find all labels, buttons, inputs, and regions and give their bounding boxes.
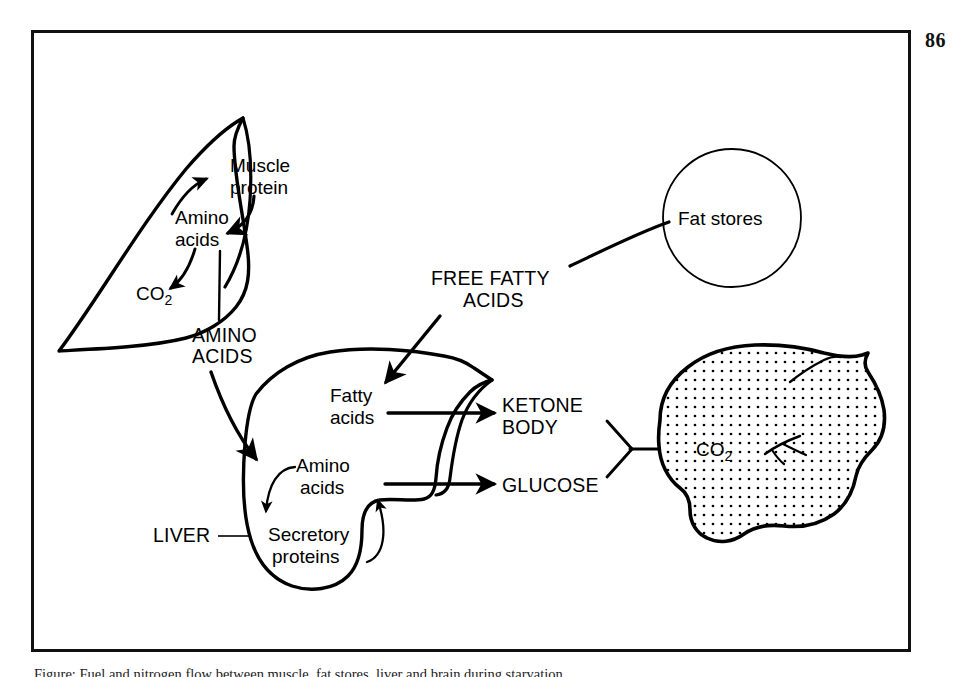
glucose-label: GLUCOSE (502, 474, 599, 496)
figure-page: 86 Mus (0, 0, 954, 677)
liver-amino-acids-label-line1: Amino (296, 455, 350, 476)
arrow-amino-to-co2 (171, 249, 195, 288)
fat-stores-group[interactable]: Fat stores (570, 149, 801, 287)
brain-outline (659, 345, 885, 542)
liver-label: LIVER (153, 524, 210, 546)
systemic-amino-acids-group[interactable]: AMINO ACIDS (192, 324, 257, 459)
liver-label-group[interactable]: LIVER (153, 524, 249, 546)
muscle-protein-label-line1: Muscle (230, 155, 290, 176)
figure-caption: Figure: Fuel and nitrogen flow between m… (34, 666, 924, 677)
fat-stores-leader-line (570, 222, 669, 266)
muscle-protein-label-line2: protein (230, 177, 288, 198)
secretory-proteins-label-line2: proteins (272, 546, 340, 567)
muscle-organ-group[interactable] (59, 118, 251, 351)
arrow-secretory-proteins-to-amino (367, 501, 383, 562)
muscle-amino-acids-label-line1: Amino (175, 207, 229, 228)
ketone-body-label-line2: BODY (502, 416, 558, 438)
systemic-amino-acids-label-line1: AMINO (192, 324, 257, 346)
liver-internal: Fatty acids Amino acids Secretory protei… (266, 385, 383, 567)
free-fatty-acids-label-line2: ACIDS (463, 289, 524, 311)
merge-lower-branch (607, 449, 632, 477)
muscle-labels: Muscle protein Amino acids CO2 (136, 155, 290, 308)
liver-fatty-acids-label-line1: Fatty (330, 385, 373, 406)
fat-stores-label: Fat stores (678, 208, 762, 229)
merge-upper-branch (607, 421, 632, 449)
brain-organ-group[interactable]: CO2 (659, 345, 885, 542)
glucose-group[interactable]: GLUCOSE (502, 474, 599, 496)
metabolic-flow-diagram: Muscle protein Amino acids CO2 AMINO ACI… (0, 0, 954, 677)
muscle-co2-label: CO2 (136, 283, 173, 308)
liver-amino-acids-label-line2: acids (300, 477, 344, 498)
line-muscle-amino-to-systemic (219, 251, 220, 320)
muscle-amino-acids-label-line2: acids (175, 229, 219, 250)
systemic-amino-acids-label-line2: ACIDS (192, 345, 253, 367)
ketone-body-group[interactable]: KETONE BODY (502, 394, 583, 438)
liver-fatty-acids-label-line2: acids (330, 407, 374, 428)
free-fatty-acids-label-line1: FREE FATTY (431, 267, 550, 289)
ketone-body-label-line1: KETONE (502, 394, 583, 416)
arrow-amino-to-secretory-proteins (266, 467, 295, 511)
secretory-proteins-label-line1: Secretory (268, 524, 350, 545)
